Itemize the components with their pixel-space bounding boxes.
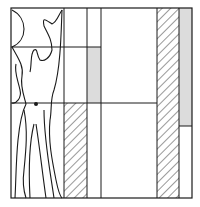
right-grey-column [179,8,192,126]
modulor-man-figure [12,10,62,198]
middle-grey-block [87,47,101,103]
lower-hatched-column [64,103,87,198]
right-hatched-column [157,8,179,198]
diagram-svg [0,0,200,207]
modulor-diagram [0,0,200,207]
